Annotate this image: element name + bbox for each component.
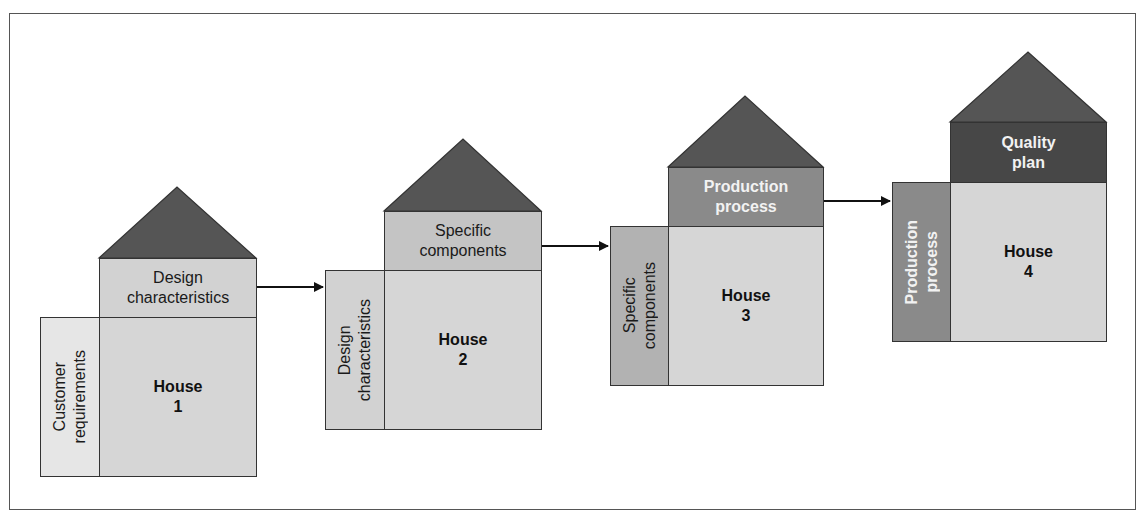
house-1-top-box: Design characteristics <box>99 258 257 318</box>
house-4-main-box: House 4 <box>950 182 1107 342</box>
house-2-title: House 2 <box>439 330 488 370</box>
house-3-top-label: Production process <box>704 177 788 217</box>
house-1-left-label: Customer requirements <box>50 350 90 443</box>
house-3-left-box: Specific components <box>610 226 669 386</box>
house-4-top-label: Quality plan <box>1001 133 1055 173</box>
house-2-left-label: Design characteristics <box>335 299 375 401</box>
house-3-main-box: House 3 <box>668 226 824 386</box>
house-2-top-box: Specific components <box>384 211 542 271</box>
house-1-title: House 1 <box>154 377 203 417</box>
house-1-main-box: House 1 <box>99 317 257 477</box>
house-3-title: House 3 <box>722 286 771 326</box>
house-2-main-box: House 2 <box>384 270 542 430</box>
house-4-left-label: Production process <box>902 220 942 304</box>
house-2-roof <box>384 139 541 211</box>
house-4-left-box: Production process <box>892 182 951 342</box>
house-3-top-box: Production process <box>668 167 824 227</box>
house-2-top-label: Specific components <box>419 221 506 261</box>
house-1-roof <box>99 187 256 258</box>
house-1-left-box: Customer requirements <box>40 317 100 477</box>
house-1-top-label: Design characteristics <box>127 268 229 308</box>
house-4-top-box: Quality plan <box>950 122 1107 183</box>
house-2-left-box: Design characteristics <box>325 270 385 430</box>
house-3-left-label: Specific components <box>620 262 660 349</box>
house-4-title: House 4 <box>1004 242 1053 282</box>
house-3-roof <box>668 96 823 167</box>
house-4-roof <box>950 52 1106 122</box>
